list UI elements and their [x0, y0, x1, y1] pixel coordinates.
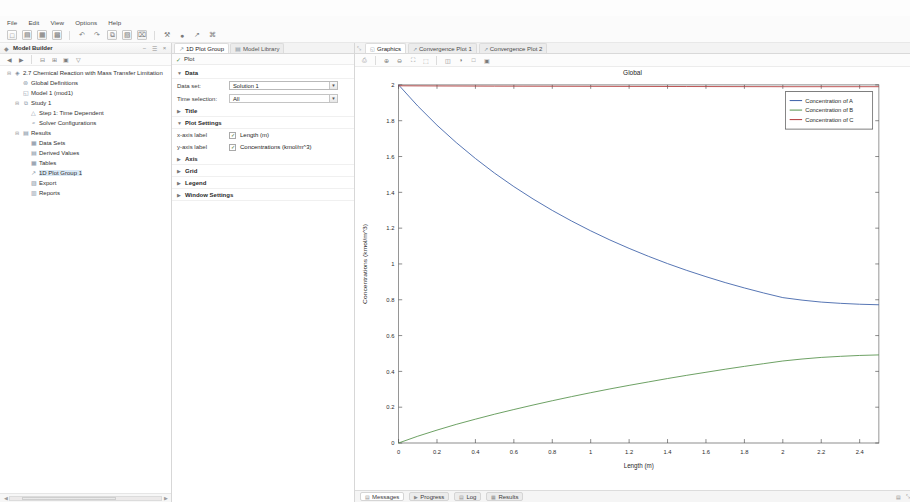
section-data-title: Data [185, 70, 198, 76]
chevron-down-icon[interactable]: ▼ [329, 95, 337, 102]
tab-model-library[interactable]: ▤ Model Library [230, 43, 284, 53]
plot-icon[interactable]: ↗ [192, 30, 202, 40]
menu-item-view[interactable]: View [49, 19, 65, 26]
open-icon[interactable]: ▤ [22, 30, 32, 40]
compute-icon[interactable]: ● [177, 30, 187, 40]
section-window-settings[interactable]: ▶ Window Settings [172, 189, 354, 201]
new-icon[interactable]: □ [7, 30, 17, 40]
pin-button[interactable]: ☰ [151, 45, 158, 52]
zoom-out-icon[interactable]: ⊖ [395, 56, 404, 65]
tree-item-export[interactable]: ▨Export [2, 178, 171, 188]
tree-item-results[interactable]: ⊟▤Results [2, 128, 171, 138]
tree-item-1d-plot-group-1[interactable]: ↗1D Plot Group 1 [2, 168, 171, 178]
status-tab-log[interactable]: ▤ Log [454, 492, 481, 501]
model-tree[interactable]: ⊟◈2.7 Chemical Reaction with Mass Transf… [0, 66, 171, 493]
graphics-panel: ⤡ ◱ Graphics ↗ Convergence Plot 1 ↗ Conv… [355, 43, 910, 502]
plot-area[interactable]: Global 00.20.40.60.811.21.41.61.822.22.4… [355, 67, 910, 490]
svg-text:0.2: 0.2 [433, 449, 442, 455]
zoom-extents-icon[interactable]: ⛶ [408, 56, 417, 65]
back-icon[interactable]: ◀ [5, 56, 13, 64]
x-axis-label-value[interactable]: Length (m) [240, 132, 269, 138]
tree-item-model-1-mod1[interactable]: ◱Model 1 (mod1) [2, 88, 171, 98]
svg-text:Length (m): Length (m) [624, 461, 654, 469]
tab-convergence-plot-2[interactable]: ↗ Convergence Plot 2 [479, 43, 548, 53]
save-icon[interactable]: ▦ [37, 30, 47, 40]
chevron-right-icon: ▶ [177, 180, 182, 186]
tree-item-derived-values[interactable]: ▤Derived Values [2, 148, 171, 158]
tree-item-data-sets[interactable]: ▦Data Sets [2, 138, 171, 148]
scene-light-icon[interactable]: ◑ [456, 56, 465, 65]
copy-icon[interactable]: ⧉ [107, 30, 117, 40]
scroll-thumb[interactable] [22, 497, 116, 500]
expander-icon[interactable]: ⊟ [14, 130, 20, 136]
tree-item-study-1[interactable]: ⊟⧉Study 1 [2, 98, 171, 108]
status-tab-progress[interactable]: ▶ Progress [409, 492, 449, 501]
tree-item-label: 1D Plot Group 1 [39, 170, 82, 176]
close-button[interactable]: × [161, 45, 168, 52]
expander-icon[interactable]: ⊟ [14, 100, 20, 106]
scroll-left-icon[interactable]: ◀ [2, 495, 9, 501]
tab-convergence-plot-1[interactable]: ↗ Convergence Plot 1 [408, 43, 477, 53]
time-selection-select[interactable]: All ▼ [229, 94, 338, 103]
section-data[interactable]: ▼ Data [172, 67, 354, 79]
paste-icon[interactable]: ▧ [122, 30, 132, 40]
redo-icon[interactable]: ↷ [92, 30, 102, 40]
show-icon[interactable]: ▣ [62, 56, 70, 64]
menu-item-file[interactable]: File [6, 19, 18, 26]
collapse-all-button[interactable]: − [141, 45, 148, 52]
help-icon[interactable]: ⌘ [207, 30, 217, 40]
tree-item-global-definitions[interactable]: ⊚Global Definitions [2, 78, 171, 88]
section-title[interactable]: ▶ Title [172, 105, 354, 117]
data-set-select[interactable]: Solution 1 ▼ [229, 81, 338, 90]
scroll-track[interactable] [9, 496, 162, 501]
section-grid[interactable]: ▶ Grid [172, 165, 354, 177]
x-axis-label-checkbox[interactable]: ✓ [229, 132, 236, 139]
transparency-icon[interactable]: ◫ [443, 56, 452, 65]
status-tab-messages[interactable]: ▤ Messages [360, 492, 404, 501]
pin-icon[interactable]: ⤡ [357, 45, 361, 52]
expander-icon[interactable]: ⊟ [6, 70, 12, 76]
section-plot-settings[interactable]: ▼ Plot Settings [172, 117, 354, 129]
scroll-right-icon[interactable]: ▶ [162, 495, 169, 501]
log-icon: ▤ [459, 494, 464, 500]
expand-icon[interactable]: ⊞ [50, 56, 58, 64]
menu-item-options[interactable]: Options [74, 19, 98, 26]
save-as-icon[interactable]: ▩ [52, 30, 62, 40]
undo-icon[interactable]: ↶ [77, 30, 87, 40]
build-icon[interactable]: ⚒ [162, 30, 172, 40]
collapse-icon[interactable]: ⊟ [38, 56, 46, 64]
menu-item-edit[interactable]: Edit [27, 19, 40, 26]
print-icon[interactable]: ⎙ [360, 56, 369, 65]
y-axis-label-value[interactable]: Concentrations (kmol/m^3) [240, 144, 312, 150]
plot-button-label[interactable]: Plot [184, 56, 194, 62]
chevron-right-icon: ▶ [177, 108, 182, 114]
model-builder-header: ◆ Model Builder − ☰ × [0, 43, 171, 54]
section-legend[interactable]: ▶ Legend [172, 177, 354, 189]
tree-item-step-1-time-dependent[interactable]: △Step 1: Time Dependent [2, 108, 171, 118]
tree-node-icon: ≈ [30, 120, 37, 127]
tree-item-tables[interactable]: ▦Tables [2, 158, 171, 168]
resize-grip-icon[interactable]: ⤡ [906, 493, 910, 500]
tab-graphics[interactable]: ◱ Graphics [365, 43, 406, 53]
camera-icon[interactable]: ▣ [482, 56, 491, 65]
select-icon[interactable]: □ [469, 56, 478, 65]
tree-item-solver-configurations[interactable]: ≈Solver Configurations [2, 118, 171, 128]
y-axis-label-checkbox[interactable]: ✓ [229, 144, 236, 151]
zoom-in-icon[interactable]: ⊕ [382, 56, 391, 65]
tree-node-icon: ▤ [22, 130, 29, 137]
tree-item-reports[interactable]: ▥Reports [2, 188, 171, 198]
menu-item-help[interactable]: Help [107, 19, 122, 26]
zoom-box-icon[interactable]: ⬚ [421, 56, 430, 65]
forward-icon[interactable]: ▶ [17, 56, 25, 64]
chevron-down-icon[interactable]: ▼ [329, 82, 337, 89]
section-axis[interactable]: ▶ Axis [172, 153, 354, 165]
delete-icon[interactable]: ⌧ [137, 30, 147, 40]
filter-icon[interactable]: ▽ [74, 56, 82, 64]
status-tab-results[interactable]: ▦ Results [486, 492, 523, 501]
model-tree-hscrollbar[interactable]: ◀ ▶ [0, 493, 171, 502]
plot-action-bar[interactable]: ✓ Plot [172, 54, 354, 65]
tree-item-2-7-chemical-reaction-with-mass-transfer-limitation[interactable]: ⊟◈2.7 Chemical Reaction with Mass Transf… [2, 68, 171, 78]
svg-text:1: 1 [589, 449, 593, 455]
tree-node-icon: ⧉ [22, 100, 29, 107]
tab-1d-plot-group[interactable]: ↗ 1D Plot Group [174, 43, 229, 53]
